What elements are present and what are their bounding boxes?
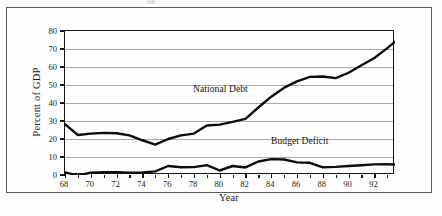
x-axis-title: Year (64, 192, 394, 203)
y-axis-tick-label: 0 (53, 171, 57, 180)
series-label-national-debt: National Debt (193, 84, 248, 94)
y-axis-tick-label: 10 (49, 153, 58, 162)
x-axis-tick-label: 78 (189, 180, 198, 189)
x-axis-tick-label: 86 (292, 180, 301, 189)
x-axis-tick-minor (387, 175, 388, 178)
y-axis-tick-label: 20 (49, 135, 58, 144)
x-axis-tick-minor (258, 175, 259, 178)
figure-root: Percent of GDP Year 01020304050607080 68… (0, 0, 442, 216)
y-axis-tick-label: 30 (49, 117, 58, 126)
x-axis-tick-label: 68 (60, 180, 69, 189)
y-axis-tick-label: 50 (49, 81, 58, 90)
y-axis-tick-label: 60 (49, 63, 58, 72)
plot-area: 01020304050607080 (64, 30, 394, 174)
y-axis-title: Percent of GDP (31, 30, 45, 174)
x-axis-tick-minor (310, 175, 311, 178)
x-axis-tick-minor (284, 175, 285, 178)
line-budget-deficit (65, 159, 395, 175)
series-lines (65, 31, 395, 175)
x-axis-tick-minor (336, 175, 337, 178)
x-axis-tick-minor (207, 175, 208, 178)
x-axis-tick-minor (104, 175, 105, 178)
series-label-budget-deficit: Budget Deficit (271, 136, 329, 146)
x-axis-tick-label: 80 (214, 180, 223, 189)
x-axis-tick-label: 92 (369, 180, 378, 189)
x-axis-tick-minor (78, 175, 79, 178)
x-axis-tick-minor (361, 175, 362, 178)
y-axis-tick-label: 70 (49, 45, 58, 54)
x-axis-tick-label: 72 (111, 180, 120, 189)
y-axis-tick-label: 40 (49, 99, 58, 108)
figure-frame: Percent of GDP Year 01020304050607080 68… (6, 7, 432, 193)
x-axis-tick-label: 74 (137, 180, 146, 189)
x-axis-tick-label: 70 (86, 180, 95, 189)
x-axis-tick-minor (233, 175, 234, 178)
x-axis-tick-minor (155, 175, 156, 178)
top-edge-artifact (147, 0, 155, 4)
x-axis-tick-label: 76 (163, 180, 172, 189)
x-axis-tick-label: 90 (343, 180, 352, 189)
x-axis-tick-label: 88 (318, 180, 327, 189)
x-axis-tick-minor (129, 175, 130, 178)
x-axis-tick-minor (181, 175, 182, 178)
y-axis-tick-label: 80 (49, 27, 58, 36)
x-axis-tick-label: 84 (266, 180, 275, 189)
x-axis-tick-label: 82 (240, 180, 249, 189)
